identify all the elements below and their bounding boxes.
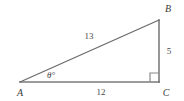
side-length-vertical: 5 bbox=[167, 47, 172, 56]
right-angle-marker-icon bbox=[150, 73, 159, 82]
vertex-label-a: A bbox=[17, 88, 23, 98]
side-length-base: 12 bbox=[97, 88, 106, 97]
side-ab-hypotenuse-line bbox=[20, 20, 159, 82]
side-length-hypotenuse: 13 bbox=[85, 32, 94, 41]
vertex-label-b: B bbox=[165, 4, 171, 14]
vertex-label-c: C bbox=[163, 88, 170, 98]
geometry-diagram: A B C 13 12 5 θ° bbox=[0, 0, 184, 101]
angle-label-theta: θ° bbox=[47, 71, 55, 80]
triangle-figure bbox=[0, 0, 184, 101]
